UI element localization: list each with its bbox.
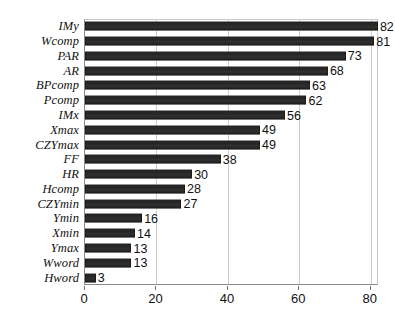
bar-fill — [85, 22, 378, 31]
bar-Hword: 3 — [85, 273, 96, 282]
bar-CZYmax: 49 — [85, 140, 260, 149]
category-label-CZYmax: CZYmax — [35, 137, 79, 152]
x-axis: 020406080 — [0, 286, 395, 312]
bar-HR: 30 — [85, 170, 192, 179]
bar-row: Wword13 — [0, 255, 395, 270]
bar-Wcomp: 81 — [85, 37, 374, 46]
bar-Xmin: 14 — [85, 229, 135, 238]
x-tick-label-0: 0 — [80, 291, 87, 306]
bar-row: FF38 — [0, 152, 395, 167]
bar-row: HR30 — [0, 167, 395, 182]
category-label-Ymin: Ymin — [53, 211, 79, 226]
category-label-Hcomp: Hcomp — [42, 181, 79, 196]
x-tick-mark-20 — [155, 286, 156, 290]
bar-CZYmin: 27 — [85, 199, 181, 208]
bar-fill — [85, 273, 96, 282]
x-tick-mark-60 — [298, 286, 299, 290]
bar-row: IMy82 — [0, 19, 395, 34]
bar-fill — [85, 199, 181, 208]
bar-value-label-Pcomp: 62 — [308, 93, 322, 107]
bar-value-label-Hcomp: 28 — [187, 182, 201, 196]
bar-value-label-Ymin: 16 — [144, 211, 158, 225]
x-tick-label-80: 80 — [363, 291, 377, 306]
bar-row: Ymax13 — [0, 241, 395, 256]
category-label-Wword: Wword — [43, 255, 79, 270]
horizontal-bar-chart: IMy82Wcomp81PAR73AR68BPcomp63Pcomp62IMx5… — [0, 0, 395, 327]
bar-row: Xmax49 — [0, 122, 395, 137]
bar-Wword: 13 — [85, 258, 131, 267]
bar-fill — [85, 66, 328, 75]
bar-fill — [85, 125, 260, 134]
category-label-HR: HR — [62, 167, 79, 182]
x-tick-label-20: 20 — [148, 291, 162, 306]
bar-rows-layer: IMy82Wcomp81PAR73AR68BPcomp63Pcomp62IMx5… — [0, 19, 395, 285]
category-label-IMy: IMy — [59, 19, 79, 34]
bar-fill — [85, 37, 374, 46]
category-label-Wcomp: Wcomp — [41, 34, 79, 49]
bar-value-label-Wcomp: 81 — [376, 34, 390, 48]
bar-fill — [85, 51, 346, 60]
bar-value-label-HR: 30 — [194, 167, 208, 181]
category-label-Pcomp: Pcomp — [44, 93, 79, 108]
bar-value-label-BPcomp: 63 — [312, 78, 326, 92]
bar-fill — [85, 140, 260, 149]
bar-Xmax: 49 — [85, 125, 260, 134]
category-label-FF: FF — [64, 152, 79, 167]
bar-Ymax: 13 — [85, 244, 131, 253]
category-label-IMx: IMx — [59, 108, 79, 123]
bar-value-label-FF: 38 — [223, 152, 237, 166]
bar-row: CZYmax49 — [0, 137, 395, 152]
category-label-BPcomp: BPcomp — [36, 78, 79, 93]
bar-value-label-Hword: 3 — [98, 271, 105, 285]
bar-fill — [85, 184, 185, 193]
bar-value-label-Xmax: 49 — [262, 123, 276, 137]
bar-row: BPcomp63 — [0, 78, 395, 93]
bar-FF: 38 — [85, 155, 221, 164]
x-tick-mark-40 — [227, 286, 228, 290]
bar-row: AR68 — [0, 63, 395, 78]
bar-value-label-PAR: 73 — [348, 49, 362, 63]
x-tick-mark-0 — [84, 286, 85, 290]
bar-value-label-IMy: 82 — [380, 19, 394, 33]
bar-fill — [85, 111, 285, 120]
bar-row: Ymin16 — [0, 211, 395, 226]
bar-row: Xmin14 — [0, 226, 395, 241]
bar-row: Pcomp62 — [0, 93, 395, 108]
bar-AR: 68 — [85, 66, 328, 75]
x-tick-label-60: 60 — [291, 291, 305, 306]
bar-PAR: 73 — [85, 51, 346, 60]
bar-value-label-Ymax: 13 — [133, 241, 147, 255]
bar-row: CZYmin27 — [0, 196, 395, 211]
bar-fill — [85, 258, 131, 267]
bar-fill — [85, 170, 192, 179]
bar-BPcomp: 63 — [85, 81, 310, 90]
bar-Hcomp: 28 — [85, 184, 185, 193]
bar-Ymin: 16 — [85, 214, 142, 223]
bar-fill — [85, 81, 310, 90]
category-label-PAR: PAR — [57, 48, 79, 63]
x-tick-mark-80 — [370, 286, 371, 290]
category-label-Ymax: Ymax — [51, 241, 79, 256]
bar-value-label-IMx: 56 — [287, 108, 301, 122]
bar-Pcomp: 62 — [85, 96, 306, 105]
bar-value-label-CZYmin: 27 — [183, 197, 197, 211]
x-tick-label-40: 40 — [220, 291, 234, 306]
bar-row: IMx56 — [0, 108, 395, 123]
bar-fill — [85, 155, 221, 164]
bar-row: PAR73 — [0, 49, 395, 64]
category-label-Hword: Hword — [44, 270, 79, 285]
bar-fill — [85, 96, 306, 105]
category-label-CZYmin: CZYmin — [37, 196, 79, 211]
bar-value-label-CZYmax: 49 — [262, 138, 276, 152]
bar-value-label-Xmin: 14 — [137, 226, 151, 240]
category-label-AR: AR — [64, 63, 79, 78]
bar-row: Hcomp28 — [0, 182, 395, 197]
bar-row: Wcomp81 — [0, 34, 395, 49]
bar-row: Hword3 — [0, 270, 395, 285]
bar-fill — [85, 214, 142, 223]
bar-IMx: 56 — [85, 111, 285, 120]
bar-value-label-Wword: 13 — [133, 256, 147, 270]
category-label-Xmin: Xmin — [52, 226, 79, 241]
bar-value-label-AR: 68 — [330, 64, 344, 78]
category-label-Xmax: Xmax — [50, 122, 79, 137]
